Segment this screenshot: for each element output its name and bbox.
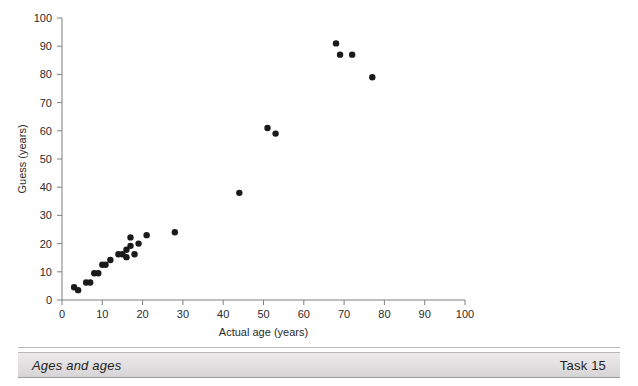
data-point: [127, 243, 133, 249]
data-points-group: [71, 40, 376, 293]
data-point: [172, 229, 178, 235]
data-point: [95, 270, 101, 276]
data-point: [131, 251, 137, 257]
x-tick-label: 50: [257, 308, 269, 320]
x-tick-label: 60: [298, 308, 310, 320]
x-tick-label: 10: [96, 308, 108, 320]
x-tick-label: 30: [177, 308, 189, 320]
x-axis-ticks: 0102030405060708090100: [59, 300, 474, 320]
data-point: [333, 40, 339, 46]
data-point: [102, 262, 108, 268]
data-point: [236, 190, 242, 196]
y-tick-label: 40: [40, 181, 52, 193]
scatter-plot: 0102030405060708090100 01020304050607080…: [0, 0, 638, 340]
y-tick-label: 30: [40, 209, 52, 221]
data-point: [369, 74, 375, 80]
caption-divider: [18, 347, 620, 348]
data-point: [337, 51, 343, 57]
x-tick-label: 70: [338, 308, 350, 320]
y-tick-label: 80: [40, 68, 52, 80]
data-point: [127, 234, 133, 240]
data-point: [123, 254, 129, 260]
data-point: [135, 240, 141, 246]
y-axis-label: Guess (years): [16, 124, 28, 193]
y-tick-label: 100: [34, 12, 52, 24]
y-tick-label: 10: [40, 266, 52, 278]
data-point: [75, 287, 81, 293]
caption-title: Ages and ages: [32, 358, 121, 373]
chart-figure: 0102030405060708090100 01020304050607080…: [0, 0, 638, 340]
x-tick-label: 90: [419, 308, 431, 320]
y-tick-label: 20: [40, 238, 52, 250]
x-tick-label: 100: [456, 308, 474, 320]
data-point: [87, 279, 93, 285]
x-tick-label: 80: [378, 308, 390, 320]
x-axis-label: Actual age (years): [219, 326, 308, 338]
x-tick-label: 40: [217, 308, 229, 320]
y-tick-label: 90: [40, 40, 52, 52]
x-tick-label: 0: [59, 308, 65, 320]
y-tick-label: 70: [40, 97, 52, 109]
y-tick-label: 0: [46, 294, 52, 306]
y-tick-label: 60: [40, 125, 52, 137]
data-point: [264, 125, 270, 131]
data-point: [272, 130, 278, 136]
x-tick-label: 20: [136, 308, 148, 320]
data-point: [107, 257, 113, 263]
caption-task-label: Task 15: [560, 358, 606, 373]
axes-group: [62, 18, 465, 300]
y-tick-label: 50: [40, 153, 52, 165]
data-point: [349, 51, 355, 57]
caption-bar: Ages and ages Task 15: [18, 352, 620, 378]
data-point: [143, 232, 149, 238]
y-axis-ticks: 0102030405060708090100: [34, 12, 62, 306]
